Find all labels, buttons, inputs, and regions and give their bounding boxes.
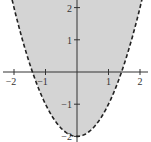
plot-area: −2−112 21−1−2 bbox=[0, 0, 151, 142]
x-tick-label: 1 bbox=[106, 76, 111, 87]
y-tick-label: −1 bbox=[61, 99, 72, 110]
x-tick-label: 2 bbox=[138, 76, 143, 87]
y-tick-label: 1 bbox=[67, 35, 72, 46]
inequality-graph: −2−112 21−1−2 bbox=[0, 0, 151, 142]
x-tick-label: −1 bbox=[37, 76, 48, 87]
y-tick-label: 2 bbox=[67, 3, 72, 14]
x-tick-label: −2 bbox=[6, 76, 17, 87]
